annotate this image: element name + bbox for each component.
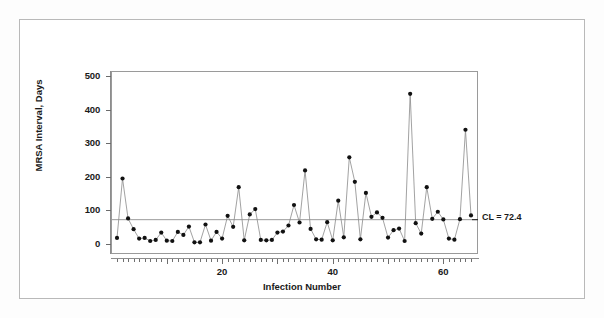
x-axis-tick (311, 259, 312, 262)
data-point (469, 213, 473, 217)
x-axis-tick (200, 259, 201, 262)
y-axis-title: MRSA Interval, Days (33, 61, 44, 191)
x-axis-tick (211, 259, 212, 262)
data-point (270, 238, 274, 242)
x-axis-tick (255, 259, 256, 262)
data-point (320, 238, 324, 242)
x-axis-tick (427, 259, 428, 262)
data-point (375, 210, 379, 214)
data-point (214, 230, 218, 234)
x-axis-tick (277, 259, 278, 264)
x-axis-tick (244, 259, 245, 262)
x-axis-tick (178, 259, 179, 262)
x-axis-tick (294, 259, 295, 262)
data-point (220, 237, 224, 241)
x-axis-tick (416, 259, 417, 262)
x-axis-tick (399, 259, 400, 262)
y-axis-tick-label: 400 (66, 104, 100, 115)
x-axis-tick-label: 20 (207, 266, 237, 277)
plot-area (111, 71, 478, 254)
data-point (308, 227, 312, 231)
x-axis-tick (288, 259, 289, 262)
y-axis-tick-label: 100 (66, 204, 100, 215)
data-point (391, 228, 395, 232)
data-point (364, 191, 368, 195)
data-point (126, 216, 130, 220)
data-point (159, 230, 163, 234)
center-line-label: CL = 72.4 (482, 212, 522, 222)
x-axis-tick-label: 60 (428, 266, 458, 277)
x-axis-tick (316, 259, 317, 262)
x-axis-tick (344, 259, 345, 262)
data-point (303, 168, 307, 172)
data-point (369, 215, 373, 219)
data-point (347, 155, 351, 159)
x-axis-tick (460, 259, 461, 262)
data-point (386, 236, 390, 240)
x-axis-tick (410, 259, 411, 262)
x-axis-tick (283, 259, 284, 262)
data-point (137, 237, 141, 241)
x-axis-tick (465, 259, 466, 262)
x-axis-tick (377, 259, 378, 262)
data-point (314, 237, 318, 241)
x-axis-tick (123, 259, 124, 262)
x-axis-tick (327, 259, 328, 262)
x-axis-tick (150, 259, 151, 262)
data-point (198, 240, 202, 244)
data-point (176, 230, 180, 234)
data-point (325, 220, 329, 224)
x-axis-tick (355, 259, 356, 262)
data-point (203, 222, 207, 226)
data-point (458, 217, 462, 221)
data-point (425, 185, 429, 189)
data-point (226, 214, 230, 218)
data-point (242, 238, 246, 242)
data-point (436, 210, 440, 214)
x-axis-tick (383, 259, 384, 262)
x-axis-tick (172, 259, 173, 262)
x-axis-tick (266, 259, 267, 262)
x-axis-tick (421, 259, 422, 262)
data-point (441, 217, 445, 221)
data-point (419, 231, 423, 235)
x-axis-tick (134, 259, 135, 262)
x-axis-tick (333, 259, 334, 264)
data-point (231, 225, 235, 229)
data-point (248, 212, 252, 216)
data-point (353, 180, 357, 184)
x-axis-title: Infection Number (0, 281, 604, 292)
x-axis-tick (117, 259, 118, 262)
x-axis-tick (371, 259, 372, 262)
data-point (452, 238, 456, 242)
data-point (286, 223, 290, 227)
data-point (154, 238, 158, 242)
x-axis-tick (145, 259, 146, 262)
data-point (336, 199, 340, 203)
y-axis-tick-label: 200 (66, 171, 100, 182)
data-point (447, 237, 451, 241)
x-axis-tick (183, 259, 184, 262)
data-point (297, 220, 301, 224)
data-point (143, 236, 147, 240)
data-point (192, 240, 196, 244)
x-axis-tick (239, 259, 240, 262)
data-point (264, 238, 268, 242)
x-axis-tick (360, 259, 361, 262)
data-point (165, 239, 169, 243)
chart-series-svg (111, 71, 478, 254)
x-axis-tick (194, 259, 195, 262)
x-axis-tick (300, 259, 301, 262)
x-axis-tick (394, 259, 395, 262)
x-axis-tick (250, 259, 251, 262)
data-point (408, 92, 412, 96)
data-point (358, 237, 362, 241)
data-point (148, 239, 152, 243)
data-point (281, 229, 285, 233)
x-axis-tick (233, 259, 234, 262)
data-point (430, 217, 434, 221)
data-point (120, 176, 124, 180)
data-point (170, 239, 174, 243)
x-axis-tick (443, 259, 444, 264)
x-axis-tick (405, 259, 406, 262)
